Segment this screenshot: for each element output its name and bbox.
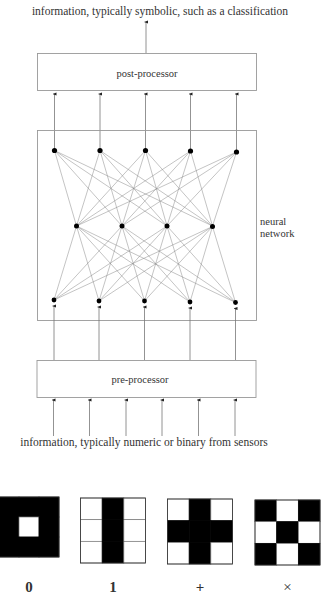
- pattern-label: +: [196, 579, 205, 595]
- post-processor-input-arrows: [55, 94, 237, 152]
- pattern-0: 0: [0, 497, 59, 595]
- pattern-label: ×: [283, 579, 291, 595]
- pattern-2: +: [168, 499, 233, 595]
- output-label: information, typically symbolic, such as…: [32, 5, 288, 18]
- neural-network-diagram: information, typically symbolic, such as…: [0, 0, 323, 602]
- input-label: information, typically numeric or binary…: [20, 436, 268, 449]
- post-processor-label: post-processor: [116, 68, 178, 79]
- pattern-1: 1: [81, 498, 146, 595]
- pattern-grids: 01+×: [0, 497, 320, 595]
- pattern-label: 1: [109, 579, 117, 595]
- network-input-arrows: [54, 306, 236, 360]
- connections-top-middle: [55, 151, 237, 227]
- input-layer-nodes: [52, 298, 238, 305]
- sensor-input-arrows: [54, 400, 236, 436]
- pre-processor-box: pre-processor: [37, 361, 256, 398]
- network-label-line2: network: [260, 228, 295, 239]
- pattern-label: 0: [25, 579, 33, 595]
- connections-middle-bottom: [54, 226, 236, 303]
- hidden-layer-nodes: [74, 224, 215, 230]
- post-processor-box: post-processor: [38, 54, 257, 91]
- network-label-line1: neural: [260, 216, 286, 227]
- output-layer-nodes: [52, 148, 239, 155]
- pre-processor-label: pre-processor: [111, 374, 169, 385]
- pattern-3: ×: [255, 500, 320, 595]
